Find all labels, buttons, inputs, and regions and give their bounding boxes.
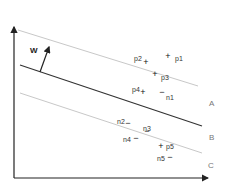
separating-lines bbox=[18, 30, 202, 153]
minus-marker-n4: − bbox=[133, 134, 138, 143]
point-label-n5: n5 bbox=[157, 155, 165, 162]
point-label-n1: n1 bbox=[166, 94, 174, 101]
plus-marker-p2: + bbox=[143, 58, 148, 67]
minus-marker-n2: − bbox=[125, 119, 130, 128]
point-label-p3: p3 bbox=[161, 74, 169, 81]
weight-vector-arrow bbox=[40, 47, 49, 72]
plus-marker-p4: + bbox=[140, 88, 145, 97]
point-label-p5: p5 bbox=[166, 143, 174, 150]
point-label-n3: n3 bbox=[143, 125, 151, 132]
line-label-b: B bbox=[209, 134, 214, 142]
plus-marker-p3: + bbox=[152, 70, 157, 79]
minus-marker-n5: − bbox=[167, 153, 172, 162]
point-label-n4: n4 bbox=[123, 136, 131, 143]
point-label-p1: p1 bbox=[175, 55, 183, 62]
plus-marker-p1: + bbox=[165, 52, 170, 61]
point-label-p4: p4 bbox=[132, 86, 140, 93]
point-label-n2: n2 bbox=[117, 118, 125, 125]
minus-marker-n1: − bbox=[159, 88, 164, 97]
line-b bbox=[20, 65, 202, 126]
line-label-a: A bbox=[209, 100, 214, 108]
weight-vector-label: W bbox=[30, 47, 38, 55]
line-c bbox=[20, 93, 202, 153]
line-label-c: C bbox=[208, 162, 214, 170]
plus-marker-p5: + bbox=[158, 142, 163, 151]
point-label-p2: p2 bbox=[134, 55, 142, 62]
diagram-canvas bbox=[0, 0, 228, 192]
svm-diagram: W ABC +p1+p2+p3+p4−n1−n2−n3−n4+p5−n5 bbox=[0, 0, 228, 192]
